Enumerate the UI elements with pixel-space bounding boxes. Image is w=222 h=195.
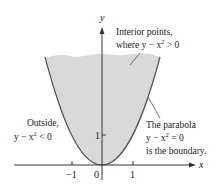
y-axis-label: y — [99, 12, 105, 23]
outside-label-line1: Outside, — [27, 118, 59, 128]
x-axis-label: x — [198, 159, 204, 170]
boundary-label-line1: The parabola — [146, 120, 197, 130]
parabola-region-diagram: x y −1 0 1 1 Interior points, where y − … — [0, 0, 222, 195]
x-axis-arrow-icon — [189, 163, 196, 168]
x-tick-label-0: 0 — [94, 169, 99, 180]
boundary-label-line3: is the boundary. — [146, 146, 206, 156]
x-tick-label-neg1: −1 — [66, 169, 77, 180]
y-axis-arrow-icon — [100, 27, 105, 34]
interior-label-line2: where y − x2 > 0 — [116, 38, 180, 50]
outside-label-line2: y − x2 < 0 — [14, 130, 52, 142]
y-tick-label-1: 1 — [95, 130, 100, 141]
boundary-label-line2: y − x2 = 0 — [146, 131, 184, 143]
boundary-pointer — [148, 97, 160, 118]
x-tick-label-1: 1 — [130, 169, 135, 180]
interior-label-line1: Interior points, — [116, 27, 172, 37]
